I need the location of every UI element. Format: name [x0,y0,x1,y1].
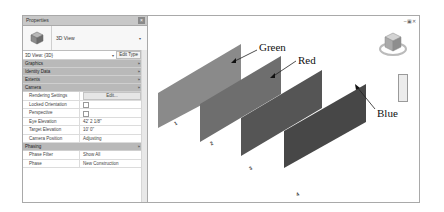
label-blue: Blue [377,107,398,119]
eye-elevation-field[interactable]: 42' 2 1/8" [80,118,147,126]
chevron-icon: » [138,60,140,67]
label-green: Green [259,41,286,53]
group-label: Phasing [25,144,41,149]
property-row-rendering-settings: Rendering Settings Edit... [23,92,147,101]
properties-palette: Properties × 3D View ▾ 3D View: {3D} ▾ E… [22,15,148,203]
property-row-phase: Phase New Construction [23,160,147,169]
group-label: Graphics [25,61,43,66]
instance-label: 3D View: {3D} [25,53,53,58]
group-label: Camera [25,85,41,90]
group-graphics[interactable]: Graphics» [23,60,147,68]
group-label: Identity Data [25,69,50,74]
group-label: Extents [25,77,40,82]
chevron-icon: » [138,68,140,75]
edit-rendering-button[interactable]: Edit... [83,92,141,100]
chevron-icon: » [138,84,140,91]
chevron-down-icon[interactable]: ▾ [112,53,114,58]
properties-scrollbar[interactable] [141,50,147,202]
property-row-camera-position: Camera Position Adjusting [23,135,147,144]
instance-selector[interactable]: 3D View: {3D} ▾ Edit Type [23,51,147,60]
label-red: Red [298,54,316,66]
type-selector[interactable]: 3D View ▾ [23,26,147,51]
chevron-icon: » [138,143,140,150]
property-row-locked-orientation: Locked Orientation [23,101,147,110]
property-key: Perspective [23,109,80,117]
property-key: Locked Orientation [23,101,80,109]
type-name: 3D View [56,35,75,41]
locked-orientation-checkbox[interactable] [83,102,89,108]
properties-title-bar: Properties × [23,16,147,26]
group-camera[interactable]: Camera» [23,84,147,92]
chevron-icon: » [138,76,140,83]
property-key: Phase [23,160,80,168]
3d-viewport[interactable]: –▣✕ Green Red Blue 1 2 3 4 [148,15,420,203]
3d-view-icon [23,26,52,50]
property-row-phase-filter: Phase Filter Show All [23,151,147,160]
group-extents[interactable]: Extents» [23,76,147,84]
group-identity-data[interactable]: Identity Data» [23,68,147,76]
properties-title: Properties [26,17,49,23]
phase-filter-field[interactable]: Show All [80,151,147,159]
close-icon[interactable]: × [138,17,145,24]
edit-type-button[interactable]: Edit Type [116,51,141,59]
chevron-down-icon[interactable]: ▾ [139,36,141,41]
target-elevation-field[interactable]: 10' 0" [80,126,147,134]
property-key: Phase Filter [23,151,80,159]
perspective-checkbox[interactable] [83,111,89,117]
property-key: Rendering Settings [23,92,80,100]
camera-position-field[interactable]: Adjusting [80,135,147,143]
property-key: Camera Position [23,135,80,143]
property-key: Target Elevation [23,126,80,134]
property-row-perspective: Perspective [23,109,147,118]
property-row-target-elevation: Target Elevation 10' 0" [23,126,147,135]
group-phasing[interactable]: Phasing» [23,143,147,151]
phase-field[interactable]: New Construction [80,160,147,168]
property-key: Eye Elevation [23,118,80,126]
property-row-eye-elevation: Eye Elevation 42' 2 1/8" [23,118,147,127]
